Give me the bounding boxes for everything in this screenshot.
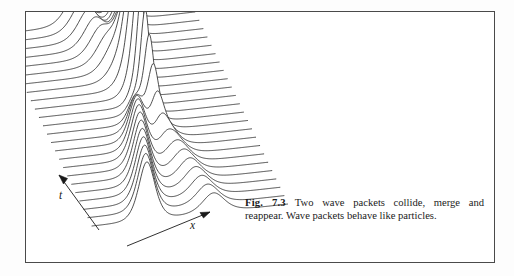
figure-frame: t x Fig. 7.3Two wave packets collide, me… <box>25 11 495 263</box>
x-axis-label: x <box>190 220 195 232</box>
wave-trace-group <box>26 12 288 262</box>
waterfall-plot <box>26 12 288 262</box>
waterfall-plot-svg <box>26 12 288 262</box>
figure-page: t x Fig. 7.3Two wave packets collide, me… <box>0 0 514 276</box>
figure-number: Fig. 7.3 <box>245 197 286 208</box>
t-axis-label: t <box>59 190 62 202</box>
figure-caption: Fig. 7.3Two wave packets collide, merge … <box>245 197 484 222</box>
